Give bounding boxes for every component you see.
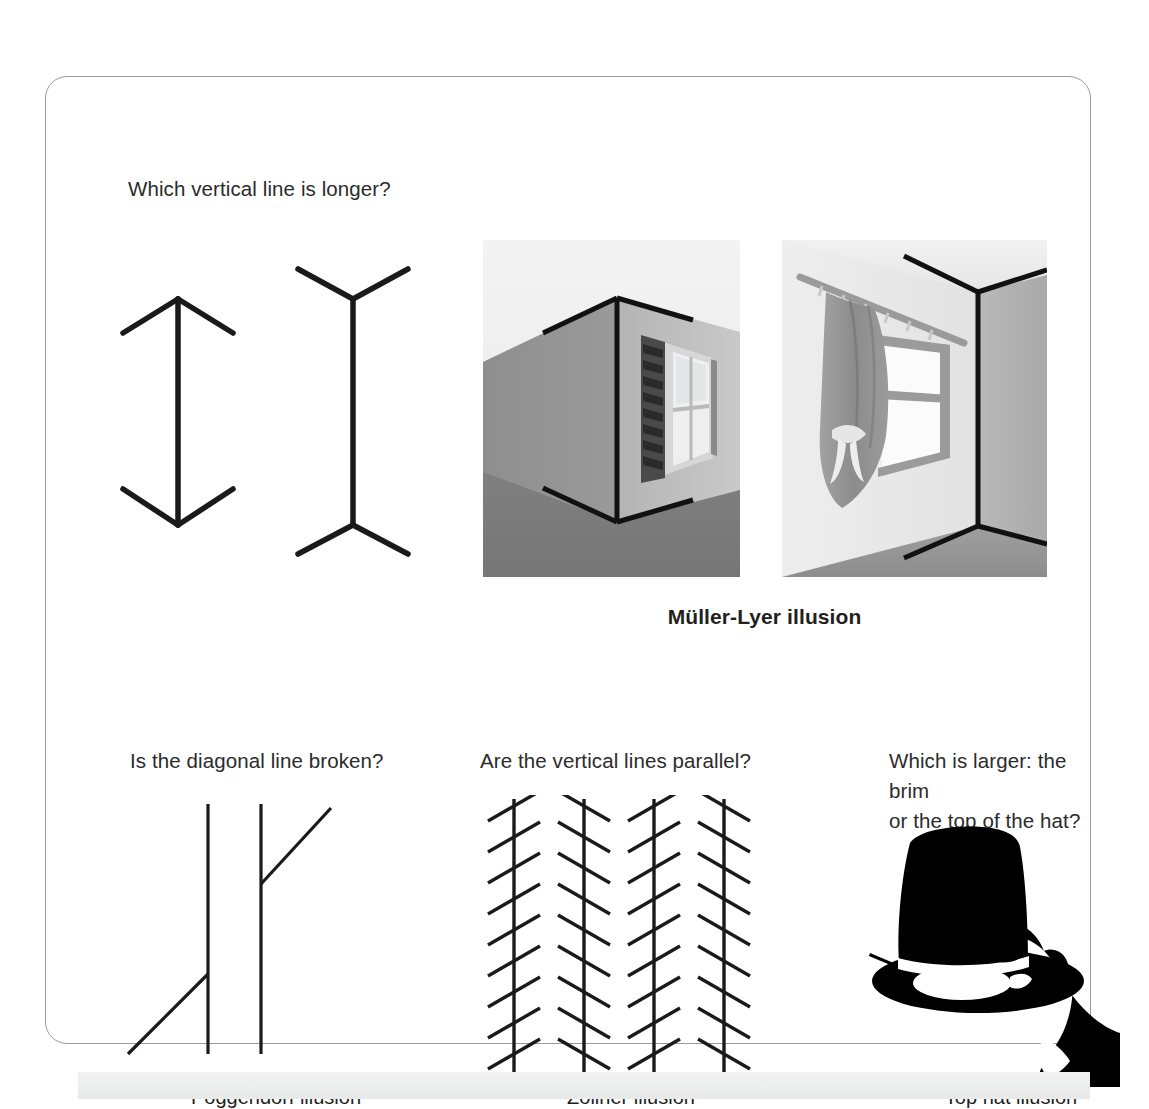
poggendorf-figure <box>124 782 414 1072</box>
muller-lyer-arrow-figure: ) --> <box>106 257 446 577</box>
building-outside-corner-photo <box>483 240 740 577</box>
question-muller-lyer: Which vertical line is longer? <box>128 174 391 204</box>
question-tophat: Which is larger: the brim or the top of … <box>889 746 1090 836</box>
page-bottom-band <box>78 1072 1090 1099</box>
zollner-figure <box>478 795 763 1085</box>
question-zollner: Are the vertical lines parallel? <box>480 746 751 776</box>
caption-muller-lyer: Müller-Lyer illusion <box>483 605 1046 629</box>
illusions-card: Which vertical line is longer? ) --> <box>45 76 1091 1044</box>
question-poggendorf: Is the diagonal line broken? <box>130 746 384 776</box>
top-hat-silhouette <box>858 825 1143 1087</box>
room-inside-corner-photo <box>782 240 1047 577</box>
